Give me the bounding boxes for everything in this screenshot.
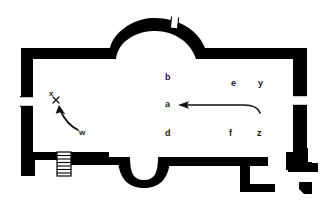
- room-label-f: f: [229, 129, 232, 138]
- west-wall-gap: [20, 97, 33, 106]
- room-label-b: b: [165, 73, 171, 82]
- south-wall-mid: [70, 157, 122, 165]
- east-wall-gap-frame-b: [293, 105, 307, 106]
- south-wall-right: [166, 157, 268, 166]
- room-label-d: d: [165, 129, 171, 138]
- east-wall-gap-frame-a: [293, 95, 307, 96]
- room-label-z: z: [257, 129, 262, 138]
- west-wall-gap-frame-a: [20, 96, 33, 97]
- east-wall-gap: [293, 96, 307, 105]
- pointer-label-w: w: [79, 129, 85, 137]
- floor-plan-figure: b e y a d f z x w: [0, 0, 331, 210]
- west-wall-gap-frame-b: [20, 106, 33, 107]
- room-label-a: a: [165, 100, 170, 109]
- room-label-e: e: [231, 79, 236, 88]
- stair-block: [57, 152, 71, 176]
- room-label-y: y: [258, 79, 263, 88]
- south-wall-left-lip: [21, 152, 35, 176]
- pointer-label-x: x: [49, 90, 53, 98]
